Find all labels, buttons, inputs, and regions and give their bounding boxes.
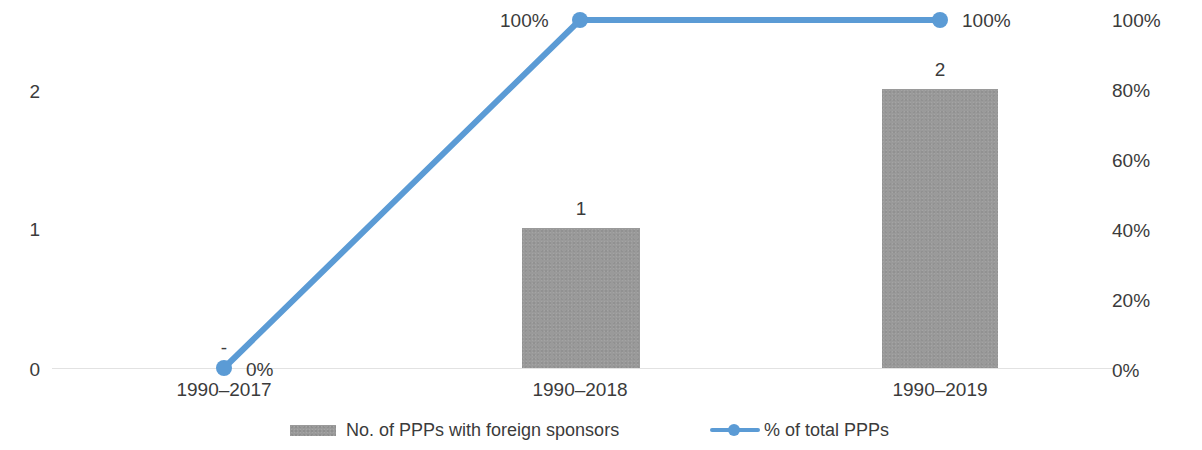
legend-item-line-label: % of total PPPs xyxy=(764,420,889,441)
right-axis-tick-20: 20% xyxy=(1112,291,1192,310)
combo-chart: 2 1 0 100% 80% 60% 40% 20% 0% - 1 2 0% 1… xyxy=(0,0,1202,450)
category-label-1990-2018: 1990–2018 xyxy=(532,380,627,399)
line-label-1990-2018: 100% xyxy=(500,11,549,30)
category-label-1990-2017: 1990–2017 xyxy=(176,380,271,399)
legend-line-swatch-icon xyxy=(710,423,760,437)
bar-1990-2019[interactable] xyxy=(882,89,998,368)
right-axis-tick-100: 100% xyxy=(1112,11,1192,30)
right-axis-tick-0: 0% xyxy=(1112,361,1192,380)
zero-gridline xyxy=(52,368,1114,369)
bar-label-1990-2017: - xyxy=(196,338,252,357)
legend-item-bar-label: No. of PPPs with foreign sponsors xyxy=(346,420,619,441)
left-axis-tick-1: 1 xyxy=(0,220,40,239)
category-label-1990-2019: 1990–2019 xyxy=(892,380,987,399)
line-label-1990-2019: 100% xyxy=(962,11,1011,30)
right-axis-tick-60: 60% xyxy=(1112,151,1192,170)
line-point-1990-2019 xyxy=(932,12,948,28)
legend-line-marker-dot xyxy=(728,424,740,436)
right-axis-tick-40: 40% xyxy=(1112,221,1192,240)
line-point-1990-2018 xyxy=(572,12,588,28)
bar-1990-2018[interactable] xyxy=(522,228,640,368)
legend-bar-swatch-icon xyxy=(290,425,336,436)
bar-label-1990-2018: 1 xyxy=(553,199,609,218)
line-label-1990-2017: 0% xyxy=(246,360,273,379)
left-axis-tick-0: 0 xyxy=(0,360,40,379)
left-axis-tick-2: 2 xyxy=(0,82,40,101)
bar-label-1990-2019: 2 xyxy=(912,60,968,79)
right-axis-tick-80: 80% xyxy=(1112,81,1192,100)
chart-legend: No. of PPPs with foreign sponsors % of t… xyxy=(0,416,1202,444)
legend-item-line[interactable]: % of total PPPs xyxy=(710,416,889,444)
legend-item-bar[interactable]: No. of PPPs with foreign sponsors xyxy=(290,416,619,444)
